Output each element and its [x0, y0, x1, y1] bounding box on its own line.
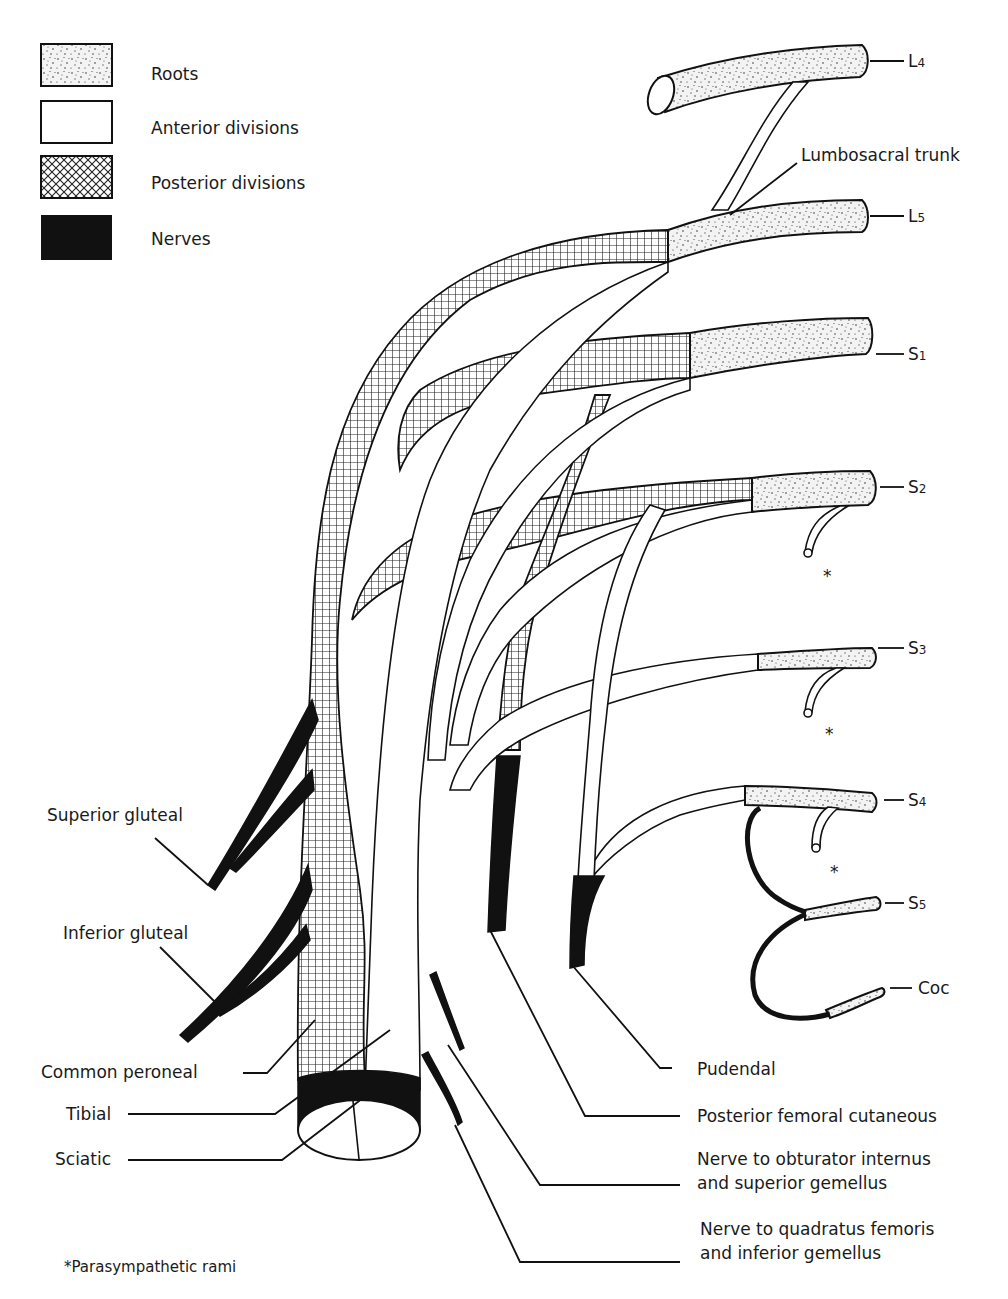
root-labels: L4 L5 S1 S2 S3 S4 S5 Coc [908, 51, 950, 998]
legend-label: Anterior divisions [151, 118, 299, 138]
label-s4: S4 [908, 790, 926, 810]
label-posterior-femoral-cutaneous: Posterior femoral cutaneous [697, 1106, 937, 1126]
label-lumbosacral-trunk: Lumbosacral trunk [801, 145, 960, 165]
label-obturator-line2: and superior gemellus [697, 1173, 887, 1193]
sciatic-cut-end [298, 1100, 420, 1160]
label-sciatic: Sciatic [55, 1149, 111, 1169]
nerve-quadratus-femoris [422, 1052, 462, 1125]
label-quadratus-line2: and inferior gemellus [700, 1243, 881, 1263]
legend-item-posterior: Posterior divisions [41, 156, 306, 198]
label-s1: S1 [908, 344, 926, 364]
legend-item-roots: Roots [41, 44, 199, 86]
legend: Roots Anterior divisions Posterior divis… [41, 44, 306, 260]
label-s2: S2 [908, 477, 926, 497]
root-s3 [758, 648, 876, 670]
roots-swatch [41, 44, 112, 86]
root-s1 [690, 318, 872, 378]
legend-label: Posterior divisions [151, 173, 306, 193]
posterior-swatch [41, 156, 112, 198]
asterisk-s4: * [830, 862, 839, 882]
label-obturator-line1: Nerve to obturator internus [697, 1149, 931, 1169]
root-s2 [752, 471, 876, 512]
legend-label: Roots [151, 64, 199, 84]
s2-ramus [805, 506, 848, 552]
root-l4 [658, 45, 868, 112]
nerve-posterior-femoral-cutaneous [488, 756, 520, 932]
s3-ramus-end [804, 709, 812, 717]
roots [643, 45, 885, 1018]
root-l5 [668, 200, 868, 262]
asterisk-s2: * [823, 566, 832, 586]
label-common-peroneal: Common peroneal [41, 1062, 198, 1082]
label-coc: Coc [918, 978, 950, 998]
label-quadratus-line1: Nerve to quadratus femoris [700, 1219, 935, 1239]
footnote: *Parasympathetic rami [64, 1258, 236, 1276]
label-l5: L5 [908, 206, 925, 226]
root-s5 [805, 897, 881, 920]
legend-item-nerves: Nerves [41, 215, 211, 260]
root-s4 [745, 786, 877, 812]
label-tibial: Tibial [65, 1104, 111, 1124]
s4-ramus-end [812, 844, 820, 852]
label-superior-gluteal: Superior gluteal [47, 805, 183, 825]
legend-item-anterior: Anterior divisions [41, 101, 299, 143]
anterior-swatch [41, 101, 112, 143]
sacral-plexus-diagram: Roots Anterior divisions Posterior divis… [0, 0, 1008, 1299]
s2-ramus-end [804, 549, 812, 557]
nerve-obturator-internus [430, 972, 464, 1050]
label-pudendal: Pudendal [697, 1059, 776, 1079]
label-inferior-gluteal: Inferior gluteal [63, 923, 188, 943]
label-l4: L4 [908, 51, 925, 71]
label-s5: S5 [908, 893, 926, 913]
nerves-swatch [41, 215, 112, 260]
nerve-pudendal [570, 876, 604, 968]
s3-ramus [805, 668, 844, 712]
legend-label: Nerves [151, 229, 211, 249]
label-s3: S3 [908, 638, 926, 658]
root-coc [826, 988, 884, 1018]
s4-ramus [812, 807, 838, 847]
asterisk-s3: * [825, 724, 834, 744]
